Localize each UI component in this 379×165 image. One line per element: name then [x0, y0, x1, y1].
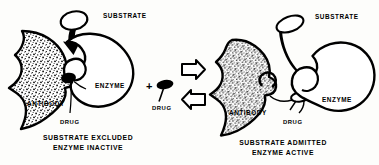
panel-caption-line2: ENZYME ACTIVE [252, 149, 314, 156]
enzyme-label: ENZYME [322, 96, 352, 103]
enzyme-label: ENZYME [95, 82, 125, 89]
figure-canvas: SUBSTRATE ANTIBODY ENZYME DRUG SUBSTRATE… [0, 0, 379, 165]
substrate-label: SUBSTRATE [103, 12, 147, 19]
panel-caption-line2: ENZYME INACTIVE [53, 144, 123, 151]
enzyme-immunoassay-figure: SUBSTRATE ANTIBODY ENZYME DRUG SUBSTRATE… [0, 0, 379, 165]
drug-label: DRUG [60, 119, 80, 125]
drug-label: DRUG [283, 119, 303, 125]
substrate-label: SUBSTRATE [315, 13, 359, 20]
free-drug-label: DRUG [152, 105, 172, 111]
plus-sign: + [146, 80, 153, 92]
antibody-label: ANTIBODY [27, 100, 65, 107]
panel-caption-line1: SUBSTRATE EXCLUDED [43, 134, 133, 141]
panel-caption-line1: SUBSTRATE ADMITTED [239, 139, 327, 146]
antibody-label: ANTIBODY [229, 109, 267, 116]
